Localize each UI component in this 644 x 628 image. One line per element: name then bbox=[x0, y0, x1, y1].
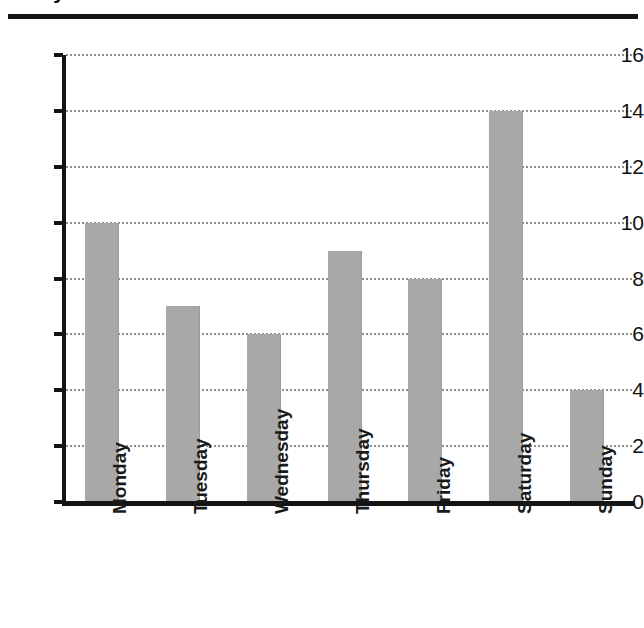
y-axis-tick-label: 6 bbox=[600, 323, 644, 344]
x-axis-tick-label: Thursday bbox=[353, 428, 372, 514]
x-axis-tick-label: Wednesday bbox=[272, 409, 291, 514]
bar-chart: 0246810121416 MondayTuesdayWednesdayThur… bbox=[0, 0, 644, 628]
gridline bbox=[66, 54, 632, 56]
y-axis-tick-label: 12 bbox=[600, 156, 644, 177]
y-axis-tick bbox=[54, 109, 63, 113]
x-axis-line bbox=[62, 501, 634, 506]
y-axis-tick-label: 4 bbox=[600, 379, 644, 400]
y-axis-tick-label: 14 bbox=[600, 100, 644, 121]
gridline bbox=[66, 222, 632, 224]
y-axis-tick bbox=[54, 53, 63, 57]
y-axis-tick bbox=[54, 332, 63, 336]
y-axis-tick-label: 8 bbox=[600, 268, 644, 289]
y-axis-tick bbox=[54, 444, 63, 448]
x-axis-tick-label: Friday bbox=[434, 457, 453, 514]
gridline bbox=[66, 166, 632, 168]
y-axis-tick-label: 16 bbox=[600, 44, 644, 65]
y-axis-tick-label: 10 bbox=[600, 212, 644, 233]
x-axis-tick-label: Saturday bbox=[515, 433, 534, 514]
y-axis-tick bbox=[54, 388, 63, 392]
x-axis-tick-label: Sunday bbox=[596, 445, 615, 514]
gridline bbox=[66, 110, 632, 112]
y-axis-tick bbox=[54, 500, 63, 504]
y-axis-tick bbox=[54, 165, 63, 169]
x-axis-tick-label: Monday bbox=[110, 442, 129, 514]
x-axis-tick-label: Tuesday bbox=[191, 438, 210, 514]
y-axis-tick bbox=[54, 221, 63, 225]
y-axis-tick bbox=[54, 277, 63, 281]
